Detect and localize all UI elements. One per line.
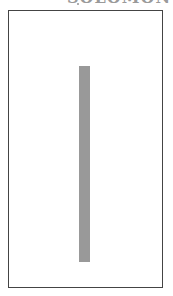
speck — [77, 3, 79, 5]
vertical-bar — [79, 66, 90, 262]
clipped-header-text: SOLOMON — [67, 0, 171, 6]
